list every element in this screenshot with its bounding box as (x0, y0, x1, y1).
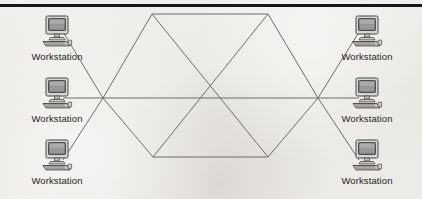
workstation-label: Workstation (330, 51, 404, 62)
workstation-node[interactable]: Workstation (330, 14, 404, 62)
workstation-computer-icon (38, 14, 76, 50)
workstation-node[interactable]: Workstation (330, 138, 404, 186)
workstation-computer-icon (348, 138, 386, 174)
workstation-label: Workstation (330, 175, 404, 186)
hub-edge (103, 98, 153, 157)
workstation-computer-icon (38, 138, 76, 174)
hub-edge (268, 98, 318, 157)
hub-edge (268, 14, 318, 98)
workstation-label: Workstation (20, 51, 94, 62)
workstation-label: Workstation (20, 113, 94, 124)
workstation-computer-icon (348, 14, 386, 50)
workstation-computer-icon (38, 76, 76, 112)
hub-edge (103, 14, 152, 98)
workstation-label: Workstation (330, 113, 404, 124)
node-links-group (63, 32, 359, 160)
network-diagram: WorkstationWorkstationWorkstationWorksta… (0, 0, 422, 199)
workstation-node[interactable]: Workstation (330, 76, 404, 124)
workstation-node[interactable]: Workstation (20, 76, 94, 124)
workstation-computer-icon (348, 76, 386, 112)
workstation-label: Workstation (20, 175, 94, 186)
workstation-node[interactable]: Workstation (20, 14, 94, 62)
hub-edges-group (103, 14, 318, 157)
workstation-node[interactable]: Workstation (20, 138, 94, 186)
